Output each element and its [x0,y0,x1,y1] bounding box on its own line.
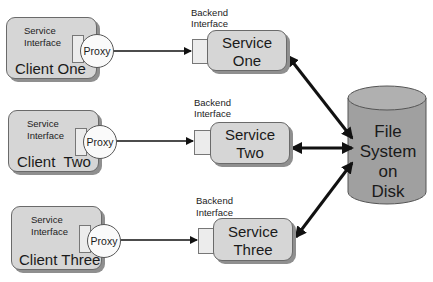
service-two-backend-label-2: Interface [194,108,231,119]
client-one-interface-label-2: Interface [24,37,61,48]
service-three-box: Service Three [213,218,293,261]
client-three-interface-label-1: Service [31,214,63,225]
service-three-name-1: Service [214,223,292,241]
client-three-proxy: Proxy [87,224,121,258]
client-two-interface-label-1: Service [27,118,59,129]
client-two-interface-label-2: Interface [27,130,64,141]
client-three-name: Client Three [19,251,100,268]
client-two-proxy: Proxy [83,125,117,159]
service-two-name-1: Service [211,126,289,144]
service-one-box: Service One [207,30,287,71]
client-three-interface-label-2: Interface [31,226,68,237]
service-two-backend-label-1: Backend [194,97,231,108]
file-system-disk-label: File System on Disk [343,122,433,202]
service-one-name-1: Service [208,34,286,52]
service-one-backend-label-1: Backend [191,7,228,18]
service-one-backend-label-2: Interface [191,18,228,29]
client-one-proxy: Proxy [80,34,114,68]
service-one-name-2: One [208,52,286,70]
service-three-backend-label-2: Interface [196,207,233,218]
service-three-backend-label-1: Backend [196,195,233,206]
client-one-interface-label-1: Service [24,25,56,36]
service-three-name-2: Three [214,241,292,259]
service-two-box: Service Two [210,122,290,164]
service-two-name-2: Two [211,144,289,162]
